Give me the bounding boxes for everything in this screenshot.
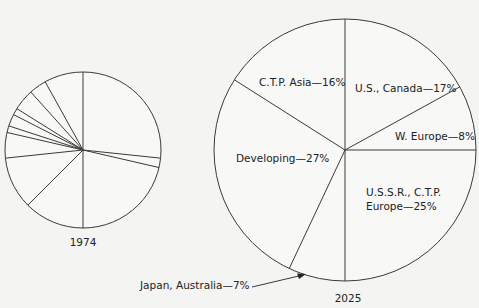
- slice-label: U.S., Canada—17%: [355, 82, 457, 94]
- slice-label: C.T.P. Asia—16%: [259, 76, 345, 88]
- year-caption-2025: 2025: [335, 292, 362, 304]
- slice-label: Europe—25%: [366, 200, 437, 212]
- japan-australia-arrow: [252, 274, 306, 288]
- slice-label: Developing—27%: [236, 152, 329, 164]
- slice-label: W. Europe—8%: [395, 130, 475, 142]
- year-caption-1974: 1974: [70, 236, 97, 248]
- slice-label: U.S.S.R., C.T.P.: [366, 186, 441, 198]
- slice-label: Japan, Australia—7%: [139, 279, 250, 291]
- pie-charts: U.S., Canada—17%W. Europe—8%U.S.S.R., C.…: [0, 0, 479, 308]
- arrowhead-icon: [297, 274, 306, 280]
- pie-chart-2025: [214, 19, 476, 281]
- pie-chart-1974: [5, 72, 161, 228]
